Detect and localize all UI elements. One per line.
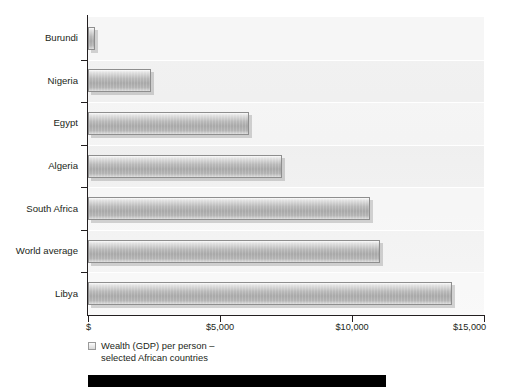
chart-legend: Wealth (GDP) per person – selected Afric… [88,340,214,363]
row-separator [88,272,484,273]
y-axis-tick [81,272,87,273]
x-axis-tick-label: $10,000 [336,322,369,333]
bar-libya [88,282,452,305]
legend-swatch-icon [88,342,96,350]
plot-area [88,17,484,315]
bar-algeria [88,155,282,178]
y-axis-labels: BurundiNigeriaEgyptAlgeriaSouth AfricaWo… [0,0,78,387]
y-axis-tick [81,187,87,188]
bar-chart: BurundiNigeriaEgyptAlgeriaSouth AfricaWo… [0,0,522,387]
y-axis-tick [81,230,87,231]
y-axis-label-nigeria: Nigeria [0,75,78,86]
bar-south-africa [88,197,370,220]
y-axis-label-libya: Libya [0,288,78,299]
x-axis-tick-label: $ [86,322,91,333]
plot-row-band [88,17,484,60]
bottom-black-band [88,375,386,387]
y-axis-tick [81,145,87,146]
bar-egypt [88,112,249,135]
row-separator [88,145,484,146]
bar-world-average [88,240,380,263]
x-axis-tick-label: $5,000 [206,322,234,333]
bar-burundi [88,27,95,50]
y-axis-label-algeria: Algeria [0,160,78,171]
bar-nigeria [88,69,151,92]
y-axis-label-burundi: Burundi [0,32,78,43]
y-axis-line [87,15,88,316]
row-separator [88,187,484,188]
row-separator [88,60,484,61]
legend-label: Wealth (GDP) per person – selected Afric… [101,340,214,363]
y-axis-label-egypt: Egypt [0,117,78,128]
y-axis-tick [81,60,87,61]
x-axis-tick-label: $15,000 [453,322,486,333]
row-separator [88,230,484,231]
y-axis-label-south-africa: South Africa [0,203,78,214]
x-axis-line [87,315,485,316]
y-axis-label-world-average: World average [0,245,78,256]
row-separator [88,102,484,103]
y-axis-tick [81,102,87,103]
